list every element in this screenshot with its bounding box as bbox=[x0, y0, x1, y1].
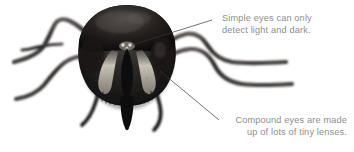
compound-eye-left bbox=[80, 37, 104, 73]
annotation-compound-eyes-line2: up of lots of tiny lenses. bbox=[221, 126, 347, 138]
figure-container: Simple eyes can only detect light and da… bbox=[0, 0, 354, 152]
annotation-compound-eyes: Compound eyes are made up of lots of tin… bbox=[221, 114, 347, 139]
annotation-simple-eyes: Simple eyes can only detect light and da… bbox=[222, 12, 312, 37]
leader-line-compound-eyes bbox=[160, 71, 219, 120]
annotation-simple-eyes-line2: detect light and dark. bbox=[222, 24, 312, 36]
mandible bbox=[121, 96, 134, 130]
right-upper-leg bbox=[160, 34, 286, 64]
annotation-compound-eyes-line1: Compound eyes are made bbox=[221, 114, 347, 126]
dome-highlight-2 bbox=[127, 12, 151, 24]
annotation-simple-eyes-line1: Simple eyes can only bbox=[222, 12, 312, 24]
right-mid-leg bbox=[158, 49, 292, 85]
compound-eye-right-sheen bbox=[154, 42, 166, 58]
